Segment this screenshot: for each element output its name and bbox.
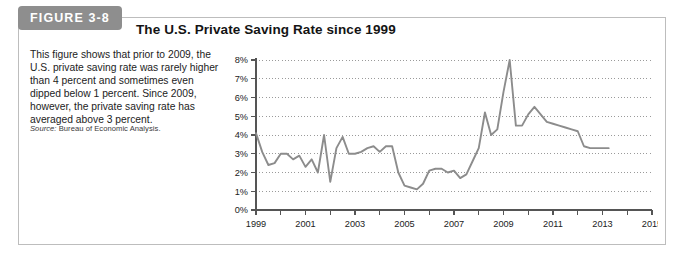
y-tick-label: 7%	[235, 74, 248, 84]
y-tick-label: 2%	[235, 168, 248, 178]
data-series-line	[256, 60, 609, 189]
line-chart: 0%1%2%3%4%5%6%7%8% 199920012003200520072…	[228, 52, 658, 238]
figure-title: The U.S. Private Saving Rate since 1999	[136, 22, 396, 37]
y-tick-label: 5%	[235, 112, 248, 122]
chart-svg: 0%1%2%3%4%5%6%7%8% 199920012003200520072…	[228, 52, 658, 238]
x-tick-label: 2011	[543, 219, 563, 229]
y-tick-label: 3%	[235, 149, 248, 159]
figure-number-badge: FIGURE 3-8	[18, 6, 122, 30]
x-tick-label: 2013	[592, 219, 612, 229]
figure-caption: This figure shows that prior to 2009, th…	[30, 48, 222, 127]
figure-source: Source: Bureau of Economic Analysis.	[30, 124, 230, 133]
x-tick-label: 2007	[444, 219, 464, 229]
y-tick-label: 6%	[235, 93, 248, 103]
x-tick-label: 2015	[642, 219, 658, 229]
source-label: Source:	[30, 124, 57, 133]
x-tick-label: 2001	[295, 219, 315, 229]
figure-container: FIGURE 3-8 The U.S. Private Saving Rate …	[0, 0, 684, 264]
x-axis-labels: 199920012003200520072009201120132015	[246, 219, 658, 229]
y-tick-label: 8%	[235, 55, 248, 65]
x-tick-label: 2009	[493, 219, 513, 229]
y-tick-label: 4%	[235, 130, 248, 140]
x-tick-label: 1999	[246, 219, 266, 229]
y-tick-label: 1%	[235, 187, 248, 197]
y-tick-label: 0%	[235, 205, 248, 215]
source-value: Bureau of Economic Analysis.	[57, 124, 161, 133]
x-tick-label: 2003	[345, 219, 365, 229]
x-tick-label: 2005	[394, 219, 414, 229]
y-axis-labels: 0%1%2%3%4%5%6%7%8%	[235, 55, 248, 215]
